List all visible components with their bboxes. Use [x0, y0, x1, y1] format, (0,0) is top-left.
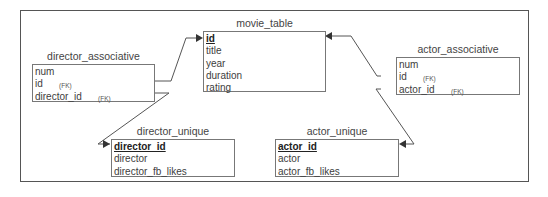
field-duration[interactable]: duration: [206, 70, 323, 82]
rel-director-assoc-to-movie: [155, 38, 197, 81]
entity-movie-table[interactable]: movie_table id title year duration ratin…: [203, 31, 326, 92]
field-actor-fb-likes[interactable]: actor_fb_likes: [278, 166, 396, 178]
arrow-head-actor-unique: [399, 140, 406, 148]
field-title[interactable]: title: [206, 45, 323, 57]
field-label: id: [399, 71, 407, 82]
entity-title: actor_associative: [396, 43, 520, 55]
entity-director-associative[interactable]: director_associative num id (FK) directo…: [32, 64, 155, 102]
field-id[interactable]: id (FK): [35, 78, 152, 90]
entity-actor-associative[interactable]: actor_associative num id (FK) actor_id (…: [396, 57, 520, 95]
entity-body: num id (FK) director_id (FK): [32, 64, 155, 102]
field-actor-id[interactable]: actor_id: [278, 141, 396, 153]
field-id[interactable]: id: [206, 33, 323, 45]
field-director-id[interactable]: director_id (FK): [35, 91, 152, 103]
entity-title: director_unique: [111, 125, 235, 137]
entity-title: actor_unique: [275, 125, 399, 137]
entity-actor-unique[interactable]: actor_unique actor_id actor actor_fb_lik…: [275, 139, 399, 177]
field-actor-id[interactable]: actor_id (FK): [399, 84, 517, 96]
field-id[interactable]: id (FK): [399, 71, 517, 83]
field-label: actor_id: [399, 84, 435, 95]
field-actor[interactable]: actor: [278, 153, 396, 165]
field-num[interactable]: num: [35, 66, 152, 78]
entity-body: actor_id actor actor_fb_likes: [275, 139, 399, 177]
entity-body: id title year duration rating: [203, 31, 326, 92]
fk-badge: (FK): [98, 93, 111, 105]
field-num[interactable]: num: [399, 59, 517, 71]
entity-director-unique[interactable]: director_unique director_id director dir…: [111, 139, 235, 177]
arrow-head-movie-right: [325, 32, 332, 40]
field-director-fb-likes[interactable]: director_fb_likes: [114, 166, 232, 178]
field-label: id: [35, 78, 43, 89]
field-year[interactable]: year: [206, 58, 323, 70]
field-director[interactable]: director: [114, 153, 232, 165]
entity-body: director_id director director_fb_likes: [111, 139, 235, 177]
entity-title: movie_table: [203, 17, 326, 29]
field-rating[interactable]: rating: [206, 82, 323, 94]
arrow-head-director-unique: [103, 140, 110, 148]
entity-body: num id (FK) actor_id (FK): [396, 57, 520, 95]
field-label: director_id: [35, 91, 82, 102]
arrow-head-movie-left: [196, 34, 203, 42]
rel-actor-assoc-to-movie: [330, 36, 381, 76]
field-director-id[interactable]: director_id: [114, 141, 232, 153]
fk-badge: (FK): [451, 86, 464, 98]
entity-title: director_associative: [32, 50, 155, 62]
